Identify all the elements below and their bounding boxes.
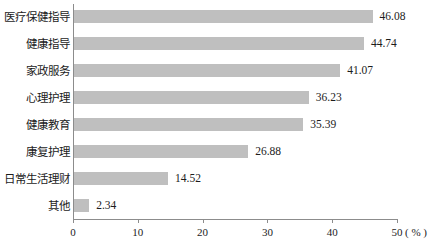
bar-value-label: 35.39 — [310, 117, 336, 131]
chart-plot-area: 医疗保健指导46.08健康指导44.74家政服务41.07心理护理36.23健康… — [0, 0, 443, 219]
bar — [74, 64, 340, 77]
x-axis-tick — [203, 219, 204, 223]
bar — [74, 91, 309, 104]
bar — [74, 118, 303, 131]
chart-row: 日常生活理财14.52 — [0, 165, 443, 192]
chart-row: 健康教育35.39 — [0, 111, 443, 138]
x-axis-tick-label: 10 — [132, 226, 143, 239]
category-label: 其他 — [0, 200, 70, 212]
x-axis-tick — [397, 219, 398, 223]
category-label: 医疗保健指导 — [0, 11, 70, 23]
category-label: 日常生活理财 — [0, 173, 70, 185]
bar-value-label: 14.52 — [175, 171, 201, 185]
chart-row: 心理护理36.23 — [0, 84, 443, 111]
chart-row: 康复护理26.88 — [0, 138, 443, 165]
bar-value-label: 44.74 — [371, 36, 397, 50]
chart-row: 健康指导44.74 — [0, 30, 443, 57]
bar-value-label: 26.88 — [255, 144, 281, 158]
bar-value-label: 46.08 — [380, 9, 406, 23]
x-axis-tick — [332, 219, 333, 223]
chart-row: 家政服务41.07 — [0, 57, 443, 84]
bar-track: 41.07 — [74, 57, 443, 84]
horizontal-bar-chart: 医疗保健指导46.08健康指导44.74家政服务41.07心理护理36.23健康… — [0, 0, 443, 251]
bar-track: 44.74 — [74, 30, 443, 57]
x-axis-tick — [138, 219, 139, 223]
x-axis-unit-label: ( % ) — [405, 226, 427, 239]
bar — [74, 199, 89, 212]
bar-track: 26.88 — [74, 138, 443, 165]
bar — [74, 145, 248, 158]
bar-track: 35.39 — [74, 111, 443, 138]
bar — [74, 172, 168, 185]
bar-value-label: 41.07 — [347, 63, 373, 77]
bar-value-label: 2.34 — [96, 198, 116, 212]
category-label: 健康指导 — [0, 38, 70, 50]
category-label: 心理护理 — [0, 92, 70, 104]
category-label: 家政服务 — [0, 65, 70, 77]
chart-row: 医疗保健指导46.08 — [0, 3, 443, 30]
x-axis-tick-label: 50 — [392, 226, 403, 239]
x-axis-tick-label: 0 — [70, 226, 76, 239]
x-axis-tick — [73, 219, 74, 223]
bar — [74, 10, 373, 23]
bar-track: 2.34 — [74, 192, 443, 219]
bar-track: 14.52 — [74, 165, 443, 192]
bar-track: 46.08 — [74, 3, 443, 30]
x-axis-tick-label: 40 — [327, 226, 338, 239]
category-label: 健康教育 — [0, 119, 70, 131]
bar-track: 36.23 — [74, 84, 443, 111]
x-axis-tick-label: 20 — [197, 226, 208, 239]
x-axis-line — [73, 219, 397, 220]
bar — [74, 37, 364, 50]
chart-row: 其他2.34 — [0, 192, 443, 219]
category-label: 康复护理 — [0, 146, 70, 158]
x-axis-tick-label: 30 — [262, 226, 273, 239]
bar-value-label: 36.23 — [316, 90, 342, 104]
x-axis-tick — [267, 219, 268, 223]
